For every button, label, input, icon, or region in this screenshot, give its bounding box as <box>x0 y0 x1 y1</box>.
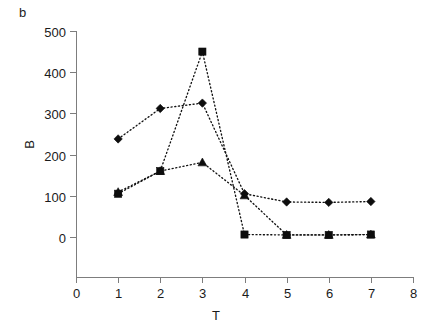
y-tick-label: 200 <box>44 149 66 164</box>
series-diamond-marker <box>156 104 164 112</box>
series-diamond-marker <box>325 198 333 206</box>
chart-plot-area: 0100200300400500 012345678 <box>0 0 432 332</box>
y-tick-label: 500 <box>44 25 66 40</box>
x-tick-label: 5 <box>284 286 291 301</box>
x-tick-label: 3 <box>199 286 206 301</box>
series-diamond-marker <box>282 198 290 206</box>
series-square-marker <box>241 231 248 238</box>
x-tick-label: 8 <box>410 286 417 301</box>
series-diamond-line <box>118 103 371 202</box>
x-tick-label: 2 <box>157 286 164 301</box>
y-tick-label: 100 <box>44 190 66 205</box>
y-tick-label: 0 <box>59 231 66 246</box>
x-tick-label: 1 <box>115 286 122 301</box>
series-diamond-marker <box>198 99 206 107</box>
series-square-marker <box>199 48 206 55</box>
series-triangle-marker <box>198 158 207 166</box>
x-tick-label: 4 <box>242 286 249 301</box>
series-group <box>114 48 376 239</box>
y-tick-group <box>70 32 76 238</box>
series-square <box>115 48 375 239</box>
axis-group <box>76 31 413 278</box>
y-tick-label-group: 0100200300400500 <box>44 25 66 246</box>
x-tick-label: 7 <box>368 286 375 301</box>
y-tick-label: 400 <box>44 66 66 81</box>
x-tick-label: 6 <box>326 286 333 301</box>
series-diamond-marker <box>367 197 375 205</box>
series-triangle <box>114 158 376 238</box>
series-square-line <box>118 52 371 235</box>
y-tick-label: 300 <box>44 107 66 122</box>
x-tick-label-group: 012345678 <box>73 286 417 301</box>
x-tick-label: 0 <box>73 286 80 301</box>
figure-panel-b: b B T 0100200300400500 012345678 <box>0 0 432 332</box>
